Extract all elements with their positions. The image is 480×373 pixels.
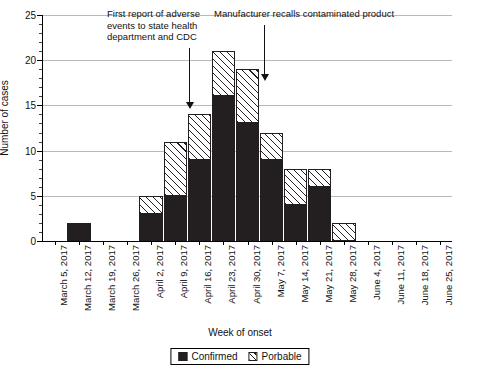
y-minor-tick-18: [39, 78, 42, 79]
bar-segment-probable: [332, 223, 356, 241]
y-tick-0: [37, 241, 42, 242]
y-minor-tick-2: [39, 223, 42, 224]
bar-segment-confirmed: [260, 160, 284, 241]
annotation-first-report-arrow: [189, 48, 190, 103]
y-axis-title: Number of cases: [0, 80, 10, 156]
legend-item-probable: Porbable: [249, 351, 302, 362]
legend-label-confirmed: Confirmed: [191, 351, 237, 362]
x-tick-label: April 30, 2017: [251, 245, 262, 304]
y-minor-tick-16: [39, 96, 42, 97]
x-tick-label: June 25, 2017: [443, 245, 454, 305]
x-tick-label: June 11, 2017: [395, 245, 406, 305]
legend-label-probable: Porbable: [262, 351, 302, 362]
y-tick-25: [37, 15, 42, 16]
x-tick-label: April 2, 2017: [154, 245, 165, 298]
x-axis-tick-labels: March 5, 2017March 12, 2017March 19, 201…: [42, 245, 452, 323]
bar-group: [67, 223, 91, 241]
bar-segment-confirmed: [308, 187, 332, 241]
annotation-recall-arrow: [264, 25, 265, 75]
bar-group: [332, 223, 356, 241]
y-minor-tick-14: [39, 114, 42, 115]
annotation-recall: Manufacturer recalls contaminated produc…: [214, 8, 459, 20]
bar-segment-probable: [308, 169, 332, 187]
bar-segment-probable: [212, 51, 236, 96]
bar-segment-probable: [139, 196, 163, 214]
bar-segment-confirmed: [164, 196, 188, 241]
y-minor-tick-1: [39, 232, 42, 233]
y-minor-tick-12: [39, 133, 42, 134]
y-tick-label-15: 15: [25, 100, 36, 111]
confirmed-swatch-icon: [178, 352, 187, 361]
y-minor-tick-21: [39, 51, 42, 52]
y-tick-10: [37, 151, 42, 152]
x-tick-label: May 28, 2017: [347, 245, 358, 303]
bar-segment-confirmed: [236, 123, 260, 241]
y-minor-tick-4: [39, 205, 42, 206]
plot-area: 0510152025: [42, 15, 452, 241]
y-minor-tick-9: [39, 160, 42, 161]
x-tick-label: May 7, 2017: [275, 245, 286, 297]
y-tick-20: [37, 60, 42, 61]
y-minor-tick-23: [39, 33, 42, 34]
y-minor-tick-6: [39, 187, 42, 188]
bar-segment-probable: [284, 169, 308, 205]
x-tick-label: April 23, 2017: [226, 245, 237, 304]
y-minor-tick-22: [39, 42, 42, 43]
bar-segment-confirmed: [139, 214, 163, 241]
y-minor-tick-24: [39, 24, 42, 25]
y-minor-tick-13: [39, 123, 42, 124]
bar-segment-confirmed: [284, 205, 308, 241]
legend-item-confirmed: Confirmed: [178, 351, 237, 362]
x-tick-label: March 5, 2017: [58, 245, 69, 306]
y-tick-label-0: 0: [30, 236, 36, 247]
bar-group: [212, 51, 236, 241]
bar-segment-probable: [188, 114, 212, 159]
chart-legend: Confirmed Porbable: [170, 348, 309, 365]
x-tick-label: May 14, 2017: [299, 245, 310, 303]
bar-group: [260, 133, 284, 241]
x-tick-label: May 21, 2017: [323, 245, 334, 303]
x-tick-label: June 4, 2017: [371, 245, 382, 300]
annotation-first-report: First report of adverse events to state …: [107, 8, 227, 43]
y-minor-tick-3: [39, 214, 42, 215]
x-tick-label: June 18, 2017: [419, 245, 430, 305]
y-tick-label-25: 25: [25, 10, 36, 21]
y-tick-label-20: 20: [25, 55, 36, 66]
y-tick-15: [37, 105, 42, 106]
y-minor-tick-11: [39, 142, 42, 143]
bar-group: [188, 114, 212, 241]
y-tick-5: [37, 196, 42, 197]
bar-group: [164, 142, 188, 241]
probable-swatch-icon: [249, 352, 258, 361]
bar-segment-confirmed: [67, 223, 91, 241]
bar-group: [284, 169, 308, 241]
bar-segment-confirmed: [188, 160, 212, 241]
bar-segment-probable: [164, 142, 188, 196]
y-minor-tick-8: [39, 169, 42, 170]
bar-group: [308, 169, 332, 241]
bar-segment-probable: [236, 69, 260, 123]
x-tick-label: March 12, 2017: [82, 245, 93, 311]
x-axis-title: Week of onset: [0, 327, 480, 338]
bar-group: [139, 196, 163, 241]
x-tick-label: March 19, 2017: [106, 245, 117, 311]
x-tick-label: April 9, 2017: [178, 245, 189, 298]
bar-group: [236, 69, 260, 241]
bar-segment-probable: [260, 133, 284, 160]
bar-series-group: [43, 15, 452, 241]
y-minor-tick-17: [39, 87, 42, 88]
y-minor-tick-7: [39, 178, 42, 179]
y-minor-tick-19: [39, 69, 42, 70]
y-tick-label-5: 5: [30, 190, 36, 201]
epidemic-curve-chart: Number of cases 0510152025 March 5, 2017…: [0, 0, 480, 373]
x-tick-label: April 16, 2017: [202, 245, 213, 304]
bar-segment-confirmed: [212, 96, 236, 241]
y-tick-label-10: 10: [25, 145, 36, 156]
x-tick-label: March 26, 2017: [130, 245, 141, 311]
